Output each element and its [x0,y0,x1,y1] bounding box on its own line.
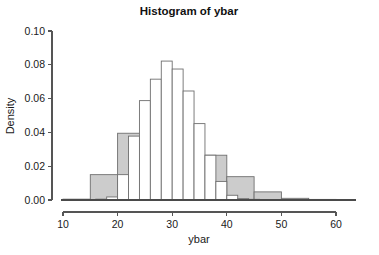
histogram-bar-gray [254,192,281,200]
y-tick-label: 0.06 [25,92,46,104]
x-axis-title: ybar [188,233,210,245]
histogram-bar-white [129,136,140,200]
histogram-bar-white [161,61,172,200]
x-axis-ticks: 102030405060 [57,212,342,230]
y-tick-label: 0.00 [25,194,46,206]
histogram-bar-white [194,124,205,200]
histogram-bar-white [150,79,161,200]
histogram-bar-white [205,155,216,200]
x-tick-label: 20 [112,218,124,230]
histogram-bar-white [183,91,194,200]
y-tick-label: 0.08 [25,58,46,70]
histogram-bar-gray [90,175,117,200]
chart-canvas: Histogram of ybar 0.000.020.040.060.080.… [0,0,379,255]
y-axis-title: Density [4,97,16,134]
x-tick-label: 50 [276,218,288,230]
y-tick-label: 0.02 [25,160,46,172]
histogram-bar-white [172,69,183,200]
histogram-plot: Histogram of ybar 0.000.020.040.060.080.… [0,0,379,255]
histogram-bar-white [227,195,238,200]
y-axis-ticks: 0.000.020.040.060.080.10 [25,25,52,206]
x-tick-label: 30 [166,218,178,230]
y-axis: 0.000.020.040.060.080.10 [25,25,52,206]
histogram-bar-white [216,181,227,200]
histogram-bar-white [118,175,129,200]
y-tick-label: 0.10 [25,25,46,37]
x-tick-label: 40 [221,218,233,230]
x-tick-label: 10 [57,218,69,230]
histogram-bar-white [139,101,150,200]
chart-title: Histogram of ybar [140,5,239,17]
x-tick-label: 60 [330,218,342,230]
y-tick-label: 0.04 [25,126,46,138]
x-axis: 102030405060 [57,212,342,230]
